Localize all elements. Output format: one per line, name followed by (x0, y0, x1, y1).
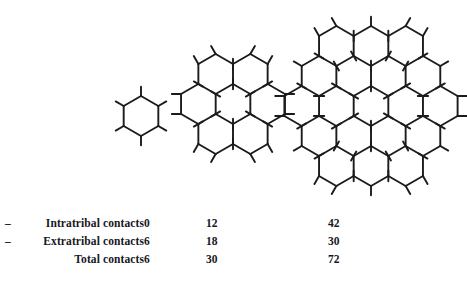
hexagon-bond (406, 176, 423, 186)
intratribal-value-2: 12 (206, 214, 328, 232)
extratribal-value-3: 30 (328, 232, 467, 250)
hexagon-cluster-circumcoronene (275, 17, 467, 195)
external-bond-tick (116, 126, 124, 131)
total-value-1: 6 (144, 250, 206, 268)
hexagon-bond (141, 126, 158, 136)
external-bond-tick (406, 18, 411, 26)
external-bond-tick (211, 46, 216, 54)
hexagon-cluster-coronene (172, 46, 294, 162)
total-value-3: 72 (328, 250, 467, 268)
external-bond-tick (250, 46, 255, 54)
hexagon-bond (354, 26, 371, 36)
external-bond-tick (194, 144, 199, 152)
hexagon-figure-area (0, 0, 467, 210)
hexagon-bond (302, 56, 319, 66)
external-bond-tick (294, 146, 302, 151)
hexagon-bond (423, 146, 440, 156)
hexagon-bond (336, 56, 353, 66)
external-bond-tick (158, 101, 166, 106)
hexagon-bond (319, 86, 336, 96)
hexagon-bond (216, 84, 233, 94)
hexagon-bond (233, 144, 250, 154)
row-label-extratribal: Extratribal contacts (16, 232, 144, 250)
hexagon-bond (198, 54, 215, 64)
hexagon-bond (354, 116, 371, 126)
hexagon-bond (233, 84, 250, 94)
external-bond-tick (314, 28, 319, 36)
external-bond-tick (314, 176, 319, 184)
external-bond-tick (158, 126, 166, 131)
hexagon-bond (233, 54, 250, 64)
hexagon-bond (198, 144, 215, 154)
hexagon-bond (233, 114, 250, 124)
hexagon-bond (371, 176, 388, 186)
external-bond-tick (294, 61, 302, 66)
hexagon-bond (216, 54, 233, 64)
row-marker-intratribal: – (0, 214, 16, 232)
hexagon-bond (124, 96, 141, 106)
hexagon-bond (371, 116, 388, 126)
hexagon-bond (141, 96, 158, 106)
hexagon-bond (423, 56, 440, 66)
hexagon-bond (440, 116, 457, 126)
hexagon-bond (388, 56, 405, 66)
hexagon-bond (250, 144, 267, 154)
intratribal-value-3: 42 (328, 214, 467, 232)
hexagon-bond (302, 146, 319, 156)
external-bond-tick (194, 56, 199, 64)
hexagon-bond (268, 84, 285, 94)
external-bond-tick (268, 56, 273, 64)
extratribal-value-2: 18 (206, 232, 328, 250)
hexagon-bond (124, 126, 141, 136)
row-label-intratribal: Intratribal contacts (16, 214, 144, 232)
extratribal-value-1: 6 (144, 232, 206, 250)
table-row: – Extratribal contacts 6 18 30 (0, 232, 467, 250)
hexagon-bond (388, 26, 405, 36)
table-row: Total contacts 6 30 72 (0, 250, 467, 268)
hexagon-bond (354, 86, 371, 96)
table-row: – Intratribal contacts 0 12 42 (0, 214, 467, 232)
hexagon-bond (284, 116, 301, 126)
external-bond-tick (332, 18, 337, 26)
external-bond-tick (268, 144, 273, 152)
external-bond-tick (440, 146, 448, 151)
hexagon-bond (336, 26, 353, 36)
hexagon-bond (336, 176, 353, 186)
hexagon-bond (336, 146, 353, 156)
external-bond-tick (116, 101, 124, 106)
external-bond-tick (250, 154, 255, 162)
hexagon-lattice-svg (0, 0, 467, 210)
hexagon-bond (406, 116, 423, 126)
row-label-total: Total contacts (16, 250, 144, 268)
external-bond-tick (423, 176, 428, 184)
external-bond-tick (211, 154, 216, 162)
hexagon-bond (406, 26, 423, 36)
external-bond-tick (332, 186, 337, 194)
row-marker-total (0, 250, 16, 268)
hexagon-bond (319, 176, 336, 186)
hexagon-bond (371, 86, 388, 96)
hexagon-bond (388, 146, 405, 156)
contacts-legend-table: – Intratribal contacts 0 12 42 – Extratr… (0, 214, 467, 268)
intratribal-value-1: 0 (144, 214, 206, 232)
external-bond-tick (423, 28, 428, 36)
row-marker-extratribal: – (0, 232, 16, 250)
hexagon-bond (440, 86, 457, 96)
hexagon-bond (388, 176, 405, 186)
hexagon-cluster-benzene (116, 87, 167, 145)
hexagon-bond (319, 116, 336, 126)
hexagon-bond (181, 84, 198, 94)
hexagon-bond (216, 144, 233, 154)
hexagon-bond (250, 54, 267, 64)
total-value-2: 30 (206, 250, 328, 268)
hexagon-bond (371, 26, 388, 36)
external-bond-tick (406, 186, 411, 194)
hexagon-bond (354, 176, 371, 186)
hexagon-bond (319, 26, 336, 36)
external-bond-tick (440, 61, 448, 66)
hexagon-bond (216, 114, 233, 124)
hexagon-bond (181, 114, 198, 124)
hexagon-bond (406, 86, 423, 96)
